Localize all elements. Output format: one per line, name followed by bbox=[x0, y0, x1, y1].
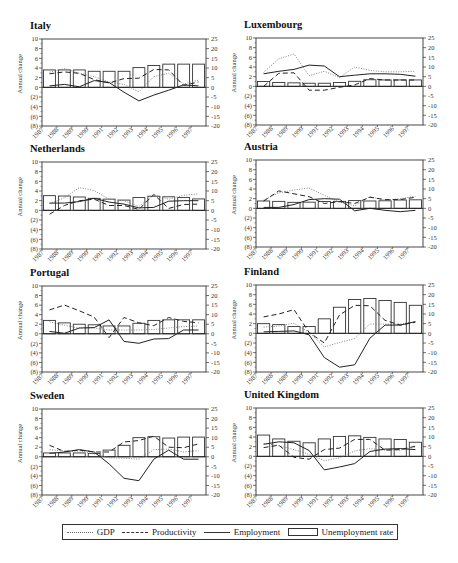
legend-item-employment: Employment bbox=[204, 527, 281, 537]
right-tick-label: 25 bbox=[428, 281, 435, 288]
unemployment-bar bbox=[273, 82, 285, 86]
right-tick-label: 10 bbox=[428, 433, 435, 440]
figure-canvas: Italy1086420(2)(4)(6)(8)2520151050-5-10-… bbox=[0, 0, 458, 563]
right-tick-label: -5 bbox=[211, 340, 216, 347]
left-tick-label: 2 bbox=[249, 73, 252, 80]
unemployment-bar bbox=[258, 82, 270, 87]
x-tick-label: 1992 bbox=[105, 372, 119, 386]
right-tick-label: 20 bbox=[211, 415, 218, 422]
x-tick-label: 1990 bbox=[290, 125, 304, 139]
unemployment-bar bbox=[394, 200, 406, 208]
right-tick-label: -10 bbox=[211, 349, 220, 356]
x-tick-label: 1988 bbox=[45, 126, 59, 140]
right-tick-label: 10 bbox=[211, 187, 218, 194]
x-tick-label: 1989 bbox=[275, 372, 289, 386]
y-axis-label: Annual change bbox=[230, 175, 237, 214]
left-tick-label: (6) bbox=[244, 482, 252, 490]
unemployment-bar bbox=[88, 325, 100, 334]
right-tick-label: -10 bbox=[211, 472, 220, 479]
left-tick-label: 0 bbox=[35, 207, 38, 214]
left-tick-label: (4) bbox=[244, 472, 252, 480]
right-tick-label: 0 bbox=[428, 453, 431, 460]
chart-title: Portugal bbox=[30, 267, 69, 278]
right-tick-label: 15 bbox=[428, 176, 435, 183]
x-tick-label: 1992 bbox=[320, 372, 334, 386]
right-tick-label: -5 bbox=[211, 463, 216, 470]
x-tick-label: 1992 bbox=[320, 247, 334, 261]
right-tick-label: 5 bbox=[428, 195, 431, 202]
right-tick-label: -20 bbox=[211, 245, 220, 252]
left-tick-label: 6 bbox=[35, 178, 39, 185]
right-tick-label: -15 bbox=[428, 234, 437, 241]
x-tick-label: 1997 bbox=[396, 246, 411, 261]
unemployment-bar bbox=[163, 320, 175, 334]
x-tick-label: 1997 bbox=[396, 124, 411, 139]
x-tick-label: 1991 bbox=[305, 247, 319, 261]
left-tick-label: 10 bbox=[32, 405, 39, 412]
x-tick-label: 1993 bbox=[336, 125, 350, 139]
chart-panel-netherlands: Netherlands1086420(2)(4)(6)(8)2520151050… bbox=[16, 143, 220, 263]
left-tick-label: 0 bbox=[35, 330, 38, 337]
left-tick-label: 6 bbox=[249, 176, 253, 183]
x-tick-label: 1996 bbox=[165, 248, 180, 263]
x-tick-label: 1997 bbox=[180, 248, 195, 263]
left-tick-label: 10 bbox=[246, 34, 253, 41]
x-tick-label: 1992 bbox=[105, 495, 119, 509]
left-tick-label: (6) bbox=[30, 113, 38, 121]
right-tick-label: -10 bbox=[211, 226, 220, 233]
legend-label-gdp: GDP bbox=[97, 527, 115, 537]
unemployment-bar bbox=[193, 437, 205, 457]
unemployment-bar bbox=[288, 441, 300, 456]
right-tick-label: 5 bbox=[428, 320, 431, 327]
left-tick-label: (6) bbox=[244, 234, 252, 242]
chart-title: Netherlands bbox=[30, 143, 85, 154]
x-tick-label: 1990 bbox=[75, 126, 89, 140]
left-tick-label: (2) bbox=[244, 92, 252, 100]
left-tick-label: 2 bbox=[35, 443, 38, 450]
x-tick-label: 1988 bbox=[45, 249, 59, 263]
x-tick-label: 1988 bbox=[260, 247, 274, 261]
x-tick-label: 1997 bbox=[180, 125, 195, 140]
left-tick-label: 8 bbox=[35, 415, 38, 422]
chart-panel-sweden: Sweden1086420(2)(4)(6)(8)2520151050-5-10… bbox=[16, 390, 220, 509]
x-tick-label: 1989 bbox=[60, 495, 74, 509]
left-tick-label: 10 bbox=[246, 156, 253, 163]
left-tick-label: (6) bbox=[30, 482, 38, 490]
legend: GDP Productivity Employment Unemployment… bbox=[62, 524, 398, 540]
x-tick-label: 1996 bbox=[165, 371, 180, 386]
unemployment-bar bbox=[103, 450, 115, 457]
x-tick-label: 1993 bbox=[120, 495, 134, 509]
right-tick-label: -20 bbox=[211, 122, 220, 129]
x-tick-label: 1989 bbox=[60, 372, 74, 386]
y-axis-label: Annual change bbox=[16, 54, 23, 93]
x-tick-label: 1991 bbox=[305, 125, 319, 139]
left-tick-label: 2 bbox=[249, 320, 252, 327]
unemployment-bar bbox=[133, 323, 145, 334]
right-tick-label: 0 bbox=[211, 84, 214, 91]
left-tick-label: 6 bbox=[249, 54, 253, 61]
legend-item-productivity: Productivity bbox=[122, 527, 197, 537]
left-tick-label: (2) bbox=[30, 216, 38, 224]
x-tick-label: 1988 bbox=[260, 495, 274, 509]
x-tick-label: 1995 bbox=[150, 126, 164, 140]
x-tick-label: 1992 bbox=[320, 125, 334, 139]
x-tick-label: 1994 bbox=[135, 248, 150, 263]
right-tick-label: 10 bbox=[211, 434, 218, 441]
unemployment-bar bbox=[409, 200, 421, 209]
unemployment-bar bbox=[303, 443, 315, 457]
y-axis-label: Annual change bbox=[230, 53, 237, 92]
unemployment-bar bbox=[333, 436, 345, 456]
left-tick-label: 2 bbox=[35, 320, 38, 327]
unemployment-bar bbox=[409, 305, 421, 333]
left-tick-label: 2 bbox=[249, 195, 252, 202]
left-tick-label: 8 bbox=[249, 166, 252, 173]
x-tick-label: 1996 bbox=[381, 246, 396, 261]
unemployment-bar bbox=[394, 302, 406, 333]
right-tick-label: 0 bbox=[211, 453, 214, 460]
unemployment-bar bbox=[303, 202, 315, 208]
unemployment-bar bbox=[349, 300, 361, 334]
right-tick-label: 20 bbox=[211, 45, 218, 52]
right-tick-label: -5 bbox=[428, 92, 433, 99]
left-tick-label: (4) bbox=[30, 349, 38, 357]
unemployment-bar bbox=[148, 320, 160, 333]
